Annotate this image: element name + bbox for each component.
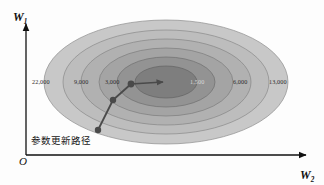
contour-label-6000: 6,000 xyxy=(233,79,247,85)
path-caption: 参数更新路径 xyxy=(31,136,91,146)
origin-label: O xyxy=(19,156,27,167)
contour-plot-figure: W1 W2 O 22,0009,0003,0001,5006,00013,000… xyxy=(0,0,324,185)
contour-ring-1500 xyxy=(135,66,197,98)
y-axis-label: W1 xyxy=(13,11,27,27)
contour-label-3000: 3,000 xyxy=(105,79,119,85)
path-point-3 xyxy=(128,81,135,88)
contour-label-9000: 9,000 xyxy=(74,79,88,85)
path-point-2 xyxy=(110,97,116,103)
contour-label-1500: 1,500 xyxy=(190,79,204,85)
path-point-1 xyxy=(95,127,101,133)
x-axis-label: W2 xyxy=(300,169,314,185)
contour-plot-canvas xyxy=(0,0,324,185)
contour-label-13000: 13,000 xyxy=(269,79,287,85)
contour-label-22000: 22,000 xyxy=(32,79,50,85)
